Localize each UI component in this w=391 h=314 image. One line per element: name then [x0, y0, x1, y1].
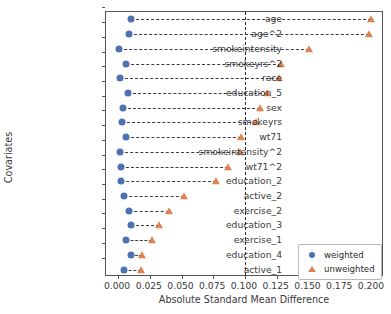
- weighted-point[interactable]: [116, 148, 123, 155]
- x-tick-mark: [182, 275, 183, 279]
- x-tick-label: 0.000: [104, 280, 130, 291]
- unweighted-point[interactable]: [212, 177, 220, 184]
- y-tick-mark: [102, 52, 106, 53]
- y-tick-label: exercise_1: [234, 234, 282, 245]
- y-tick-label: education_5: [226, 86, 282, 97]
- connector-line: [121, 167, 229, 168]
- weighted-point[interactable]: [116, 45, 123, 52]
- y-tick-label: exercise_2: [234, 204, 282, 215]
- y-tick-label: education_3: [226, 219, 282, 230]
- y-tick-mark: [102, 96, 106, 97]
- legend[interactable]: weighted unweighted: [298, 244, 382, 280]
- weighted-point[interactable]: [119, 104, 126, 111]
- weighted-point[interactable]: [117, 178, 124, 185]
- y-tick-label: education_2: [226, 175, 282, 186]
- unweighted-point[interactable]: [367, 16, 375, 23]
- y-tick-mark: [102, 213, 106, 214]
- y-tick-mark: [102, 169, 106, 170]
- unweighted-point[interactable]: [256, 104, 264, 111]
- x-tick-label: 0.200: [358, 280, 384, 291]
- unweighted-point[interactable]: [148, 236, 156, 243]
- weighted-point[interactable]: [117, 163, 124, 170]
- y-tick-label: wt71^2: [246, 160, 282, 171]
- y-tick-label: smokeintensity: [212, 42, 282, 53]
- y-tick-label: active_1: [244, 263, 282, 274]
- y-tick-mark: [102, 7, 106, 8]
- unweighted-point[interactable]: [138, 251, 146, 258]
- x-tick-label: 0.075: [199, 280, 225, 291]
- y-tick-label: age: [265, 13, 282, 24]
- matplotlib-figure: Covariates ageage^2smokeintensitysmokeyr…: [0, 0, 391, 314]
- y-tick-label: smokeyrs^2: [224, 57, 282, 68]
- connector-line: [121, 181, 217, 182]
- y-tick-mark: [102, 155, 106, 156]
- y-tick-label: sex: [266, 101, 282, 112]
- x-tick-label: 0.175: [326, 280, 352, 291]
- y-axis-title-label: Covariates: [4, 131, 15, 182]
- y-axis-title: Covariates: [2, 0, 16, 314]
- legend-label: weighted: [324, 250, 364, 260]
- y-tick-mark: [102, 66, 106, 67]
- weighted-point[interactable]: [125, 31, 132, 38]
- unweighted-point[interactable]: [137, 266, 145, 273]
- y-tick-mark: [102, 37, 106, 38]
- weighted-point[interactable]: [128, 251, 135, 258]
- unweighted-point[interactable]: [224, 163, 232, 170]
- weighted-point[interactable]: [122, 237, 129, 244]
- unweighted-point[interactable]: [365, 30, 373, 37]
- unweighted-point[interactable]: [165, 207, 173, 214]
- connector-line: [131, 19, 372, 20]
- connector-line: [122, 122, 257, 123]
- x-tick-mark: [118, 275, 119, 279]
- connector-line: [123, 108, 260, 109]
- unweighted-point[interactable]: [305, 45, 313, 52]
- weighted-point[interactable]: [116, 75, 123, 82]
- y-tick-mark: [102, 228, 106, 229]
- y-tick-mark: [102, 140, 106, 141]
- x-tick-label: 0.125: [263, 280, 289, 291]
- y-tick-label: smokeyrs: [238, 116, 282, 127]
- y-tick-label: smokeintensity^2: [199, 145, 282, 156]
- weighted-point[interactable]: [120, 266, 127, 273]
- connector-line: [129, 211, 169, 212]
- legend-item-unweighted[interactable]: unweighted: [304, 263, 375, 275]
- weighted-point[interactable]: [124, 89, 131, 96]
- weighted-point[interactable]: [123, 134, 130, 141]
- weighted-point[interactable]: [125, 207, 132, 214]
- y-tick-mark: [102, 125, 106, 126]
- circle-marker-icon: [304, 252, 320, 258]
- connector-line: [126, 137, 240, 138]
- y-tick-label: race: [262, 72, 282, 83]
- y-tick-mark: [102, 110, 106, 111]
- y-tick-mark: [102, 258, 106, 259]
- x-tick-label: 0.100: [231, 280, 257, 291]
- y-tick-label: active_2: [244, 190, 282, 201]
- x-tick-mark: [150, 275, 151, 279]
- weighted-point[interactable]: [123, 60, 130, 67]
- x-tick-label: 0.050: [167, 280, 193, 291]
- x-tick-mark: [245, 275, 246, 279]
- unweighted-point[interactable]: [180, 192, 188, 199]
- connector-line: [124, 196, 184, 197]
- unweighted-point[interactable]: [237, 133, 245, 140]
- weighted-point[interactable]: [127, 222, 134, 229]
- x-tick-mark: [277, 275, 278, 279]
- y-tick-mark: [102, 243, 106, 244]
- y-tick-label: wt71: [259, 131, 282, 142]
- x-tick-label: 0.025: [136, 280, 162, 291]
- legend-label: unweighted: [324, 264, 375, 274]
- weighted-point[interactable]: [121, 193, 128, 200]
- y-tick-mark: [102, 22, 106, 23]
- connector-line: [129, 34, 370, 35]
- y-tick-label: age^2: [251, 28, 282, 39]
- weighted-point[interactable]: [118, 119, 125, 126]
- legend-item-weighted[interactable]: weighted: [304, 249, 375, 261]
- triangle-marker-icon: [304, 266, 320, 272]
- y-tick-mark: [102, 81, 106, 82]
- unweighted-point[interactable]: [155, 222, 163, 229]
- y-tick-mark: [102, 199, 106, 200]
- weighted-point[interactable]: [127, 16, 134, 23]
- y-tick-label: education_4: [226, 248, 282, 259]
- y-tick-mark: [102, 184, 106, 185]
- x-tick-label: 0.150: [294, 280, 320, 291]
